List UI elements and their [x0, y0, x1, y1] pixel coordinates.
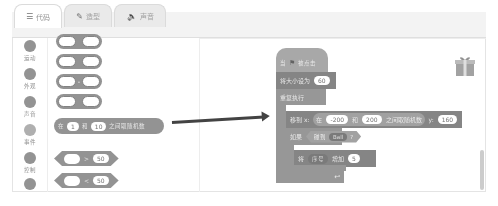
set-size-block[interactable]: 将大小设为 60 — [276, 72, 336, 89]
category-motion[interactable]: 运动 — [12, 40, 48, 62]
category-dot-icon — [24, 96, 36, 108]
random-number-block[interactable]: 在 1 和 10 之间取随机数 — [54, 118, 164, 134]
when-flag-clicked-block[interactable]: 当 ⚑ 被点击 — [276, 48, 328, 72]
code-icon: ☰ — [26, 12, 33, 21]
green-flag-icon: ⚑ — [289, 59, 295, 67]
less-than-block[interactable]: < 50 — [54, 173, 119, 188]
block-palette: • 在 1 和 10 之间取随机数 > 50 < 50 — [48, 38, 200, 192]
greater-than-block[interactable]: > 50 — [54, 151, 119, 166]
random-to-input[interactable]: 10 — [91, 122, 107, 131]
workspace-scrollbar[interactable] — [480, 150, 484, 190]
if-arm — [286, 145, 294, 165]
category-menu: 运动 外观 声音 事件 控制 — [12, 38, 48, 192]
extension-gift-icon[interactable] — [453, 55, 477, 77]
category-operators[interactable] — [12, 178, 48, 190]
tab-sounds[interactable]: 🔈 声音 — [114, 4, 166, 27]
tab-code[interactable]: ☰ 代码 — [14, 4, 62, 28]
forever-block[interactable]: 重复执行 — [276, 89, 326, 105]
forever-arm — [276, 105, 286, 171]
speaker-icon: 🔈 — [127, 12, 137, 21]
loop-arrow-icon: ↩ — [334, 173, 340, 181]
workspace-divider — [200, 38, 486, 39]
category-events[interactable]: 事件 — [12, 124, 48, 146]
random-from-input[interactable]: 1 — [67, 122, 79, 131]
operator-block[interactable] — [56, 94, 102, 109]
category-dot-icon — [24, 68, 36, 80]
category-dot-icon — [24, 178, 36, 190]
category-sound[interactable]: 声音 — [12, 96, 48, 118]
forever-end: ↩ — [276, 171, 344, 183]
brush-icon: ✎ — [76, 12, 83, 21]
tab-costumes[interactable]: ✎ 造型 — [64, 4, 112, 27]
category-dot-icon — [24, 124, 36, 136]
touching-condition[interactable]: 碰到 Ball ? — [306, 131, 361, 143]
category-dot-icon — [24, 152, 36, 164]
operator-block[interactable]: • — [56, 74, 102, 89]
if-block[interactable]: 如果 碰到 Ball ? — [286, 128, 342, 145]
goto-xy-block[interactable]: 移到 x: 在 -200 和 200 之间取随机数 y: 160 — [286, 111, 462, 128]
category-control[interactable]: 控制 — [12, 152, 48, 174]
operator-block[interactable] — [56, 34, 102, 49]
operator-block[interactable] — [56, 54, 102, 69]
category-looks[interactable]: 外观 — [12, 68, 48, 90]
category-dot-icon — [24, 40, 36, 52]
